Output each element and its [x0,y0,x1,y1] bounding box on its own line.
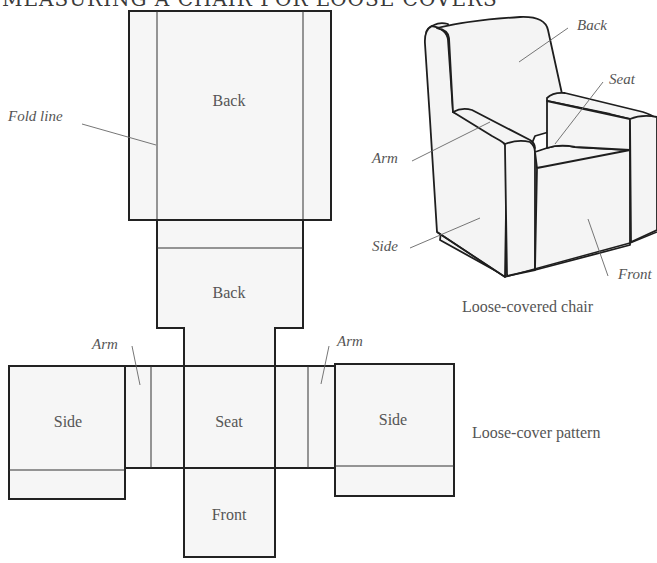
diagram-canvas: Back Back Side Seat Side Front Fold line… [0,0,657,563]
callout-arm-right: Arm [336,333,363,349]
loose-covered-chair: Back Seat Arm Side Front Loose-covered c… [371,17,657,315]
chair-callout-side: Side [372,238,398,254]
chair-callout-back: Back [577,17,607,33]
label-back-top: Back [213,92,246,109]
pattern-piece-back-top [129,11,331,220]
label-front: Front [212,506,247,523]
label-back-lower: Back [213,284,246,301]
pattern-piece-arm-right [275,366,335,468]
callout-fold-line: Fold line [7,108,63,124]
chair-front-panel [535,150,630,270]
chair-arm-right-front [630,116,657,242]
pattern-piece-side-left [9,366,125,499]
chair-callout-arm: Arm [371,150,398,166]
label-seat: Seat [215,413,243,430]
callout-arm-left: Arm [91,336,118,352]
label-side-right: Side [379,411,407,428]
chair-arm-left-front [505,141,535,276]
label-side-left: Side [54,413,82,430]
caption-loose-covered-chair: Loose-covered chair [462,298,594,315]
pattern-piece-side-right [335,364,454,496]
chair-callout-seat: Seat [609,71,636,87]
caption-loose-cover-pattern: Loose-cover pattern [472,424,600,442]
pattern-piece-arm-left [125,366,184,468]
chair-callout-front: Front [617,266,652,282]
